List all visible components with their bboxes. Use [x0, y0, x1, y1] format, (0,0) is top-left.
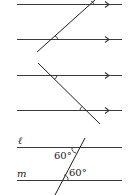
figure-1	[17, 0, 122, 52]
angle-mark-icon	[54, 76, 57, 80]
angle-mark-icon	[80, 107, 82, 111]
figure-3: ℓ m 60° 60°	[17, 135, 122, 195]
line-label-l: ℓ	[18, 135, 22, 146]
transversal	[37, 0, 95, 52]
angle-label-bottom: 60°	[69, 167, 87, 178]
parallel-lines-diagram: ℓ m 60° 60°	[0, 0, 132, 195]
angle-mark-icon	[72, 148, 76, 154]
line-label-m: m	[17, 168, 26, 179]
angle-label-top: 60°	[54, 150, 72, 161]
transversal	[38, 63, 100, 124]
figure-2	[17, 63, 122, 124]
